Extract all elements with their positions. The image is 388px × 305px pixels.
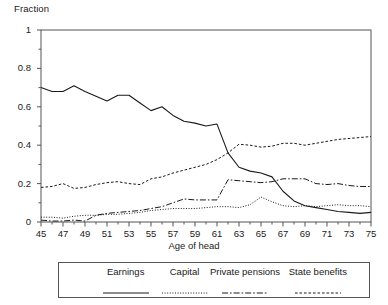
- legend: EarningsCapitalPrivate pensionsState ben…: [58, 262, 370, 298]
- x-axis-tick-label: 73: [338, 229, 360, 239]
- x-axis-tick-label: 63: [228, 229, 250, 239]
- x-axis-tick-label: 47: [52, 229, 74, 239]
- x-axis-tick-label: 59: [184, 229, 206, 239]
- chart-container: Fraction 00.20.40.60.81 4547495153555759…: [0, 0, 388, 305]
- legend-sample-svg: [263, 289, 373, 297]
- x-axis-tick-label: 61: [206, 229, 228, 239]
- x-axis-tick-label: 75: [360, 229, 382, 239]
- x-axis-tick-label: 51: [96, 229, 118, 239]
- y-axis-tick-label: 0.4: [5, 140, 31, 150]
- legend-item-swatch: [263, 283, 373, 291]
- x-axis-tick-label: 69: [294, 229, 316, 239]
- y-axis-tick-label: 0.6: [5, 102, 31, 112]
- plot-area: [0, 0, 388, 305]
- series-line-capital: [41, 197, 371, 218]
- x-axis-title: Age of head: [0, 240, 388, 251]
- legend-item: State benefits: [263, 266, 373, 291]
- x-axis-tick-label: 55: [140, 229, 162, 239]
- legend-item-label: State benefits: [263, 266, 373, 278]
- x-axis-tick-label: 67: [272, 229, 294, 239]
- x-axis-tick-label: 45: [30, 229, 52, 239]
- series-line-state-benefits: [41, 137, 371, 189]
- y-axis-tick-label: 0.8: [5, 63, 31, 73]
- x-axis-tick-label: 49: [74, 229, 96, 239]
- y-axis-tick-label: 0.2: [5, 179, 31, 189]
- series-line-earnings: [41, 86, 371, 214]
- y-axis-tick-label: 1: [5, 25, 31, 35]
- y-axis-tick-label: 0: [5, 217, 31, 227]
- x-axis-tick-label: 65: [250, 229, 272, 239]
- x-axis-tick-label: 57: [162, 229, 184, 239]
- series-line-private-pensions: [41, 179, 371, 221]
- x-axis-tick-label: 53: [118, 229, 140, 239]
- x-axis-tick-label: 71: [316, 229, 338, 239]
